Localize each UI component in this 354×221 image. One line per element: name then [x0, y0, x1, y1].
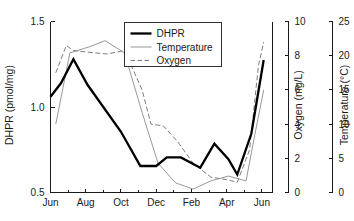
multi-axis-line-chart: JunAugOctDecFebAprJun 0.51.01.5 0246810 …: [0, 0, 354, 221]
temperature-ticklabel: 20: [339, 50, 351, 61]
left-axis-label: DHPR (pmol/mg): [3, 65, 15, 145]
chart-figure: JunAugOctDecFebAprJun 0.51.01.5 0246810 …: [0, 0, 354, 221]
temperature-ticklabel: 25: [339, 16, 351, 27]
x-ticklabel: Apr: [219, 197, 235, 208]
x-ticklabel: Jun: [42, 197, 58, 208]
series-line-dhpr: [51, 59, 264, 174]
x-axis-ticklabels: JunAugOctDecFebAprJun: [42, 197, 270, 208]
oxygen-ticklabel: 0: [295, 187, 301, 198]
legend-label-dhpr: DHPR: [157, 28, 185, 39]
oxygen-axis-ticks: [285, 22, 289, 193]
temperature-ticklabel: 0: [339, 187, 345, 198]
left-axis-ticks: [51, 22, 55, 193]
oxygen-ticklabel: 2: [295, 153, 301, 164]
left-ticklabel: 1.5: [31, 16, 45, 27]
legend-label-oxygen: Oxygen: [157, 55, 191, 66]
left-ticklabel: 0.5: [31, 187, 45, 198]
oxygen-ticklabel: 8: [295, 50, 301, 61]
x-ticklabel: Jun: [254, 197, 270, 208]
left-axis-ticklabels: 0.51.01.5: [31, 16, 45, 198]
temperature-ticklabel: 5: [339, 153, 345, 164]
temperature-axis-ticks: [329, 22, 333, 193]
x-ticklabel: Feb: [183, 197, 201, 208]
chart-legend: DHPRTemperatureOxygen: [125, 23, 222, 67]
temperature-axis-label: Temperature (°C): [338, 65, 350, 146]
x-ticklabel: Dec: [147, 197, 165, 208]
left-ticklabel: 1.0: [31, 102, 45, 113]
oxygen-ticklabel: 10: [295, 16, 307, 27]
x-ticklabel: Oct: [113, 197, 129, 208]
x-axis-ticks: [51, 189, 262, 193]
oxygen-axis-label: Oxygen (mg/L): [292, 70, 304, 139]
x-ticklabel: Aug: [77, 197, 95, 208]
legend-label-temperature: Temperature: [157, 42, 214, 53]
